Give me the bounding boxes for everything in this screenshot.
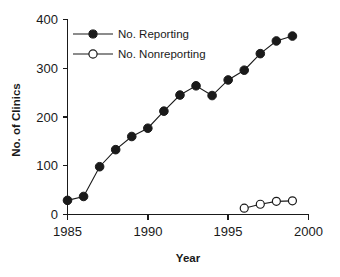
data-point [127,132,136,141]
data-point [111,145,120,154]
y-tick-label-400: 400 [36,12,58,27]
legend-marker-reporting [89,30,97,38]
series-line [244,201,292,208]
data-point [256,200,264,208]
x-tick-label-2000: 2000 [294,224,323,239]
y-axis-ticks [63,20,68,215]
data-point [176,91,185,100]
data-point [160,107,169,116]
data-point [192,82,201,91]
data-point [208,91,217,100]
data-point [79,192,88,201]
y-tick-label-0: 0 [51,207,58,222]
clinics-line-chart: 400 300 200 100 0 1985 1990 1995 2000 No… [0,0,340,277]
data-point [240,204,248,212]
y-axis-title: No. of Clinics [10,83,22,156]
y-tick-label-300: 300 [36,61,58,76]
x-tick-label-1985: 1985 [53,224,82,239]
legend-marker-nonreporting [89,50,97,58]
series-nonreporting [240,197,296,212]
data-point [144,124,153,133]
data-point [288,197,296,205]
x-axis-ticks [68,215,309,221]
data-point [95,162,104,171]
data-point [272,197,280,205]
x-tick-label-1995: 1995 [214,224,243,239]
legend-label-reporting: No. Reporting [118,28,189,40]
chart-legend: No. Reporting No. Nonreporting [73,28,206,60]
legend-label-nonreporting: No. Nonreporting [118,48,206,60]
data-point [63,196,72,205]
x-tick-label-1990: 1990 [134,224,163,239]
y-tick-label-200: 200 [36,110,58,125]
y-tick-label-100: 100 [36,158,58,173]
chart-plot-area: 400 300 200 100 0 1985 1990 1995 2000 No… [0,0,340,277]
series-line [68,36,293,200]
data-point [288,32,297,41]
data-point [272,37,281,46]
data-point [224,76,233,85]
data-point [256,49,265,58]
data-point [240,66,249,75]
x-axis-title: Year [176,252,201,264]
